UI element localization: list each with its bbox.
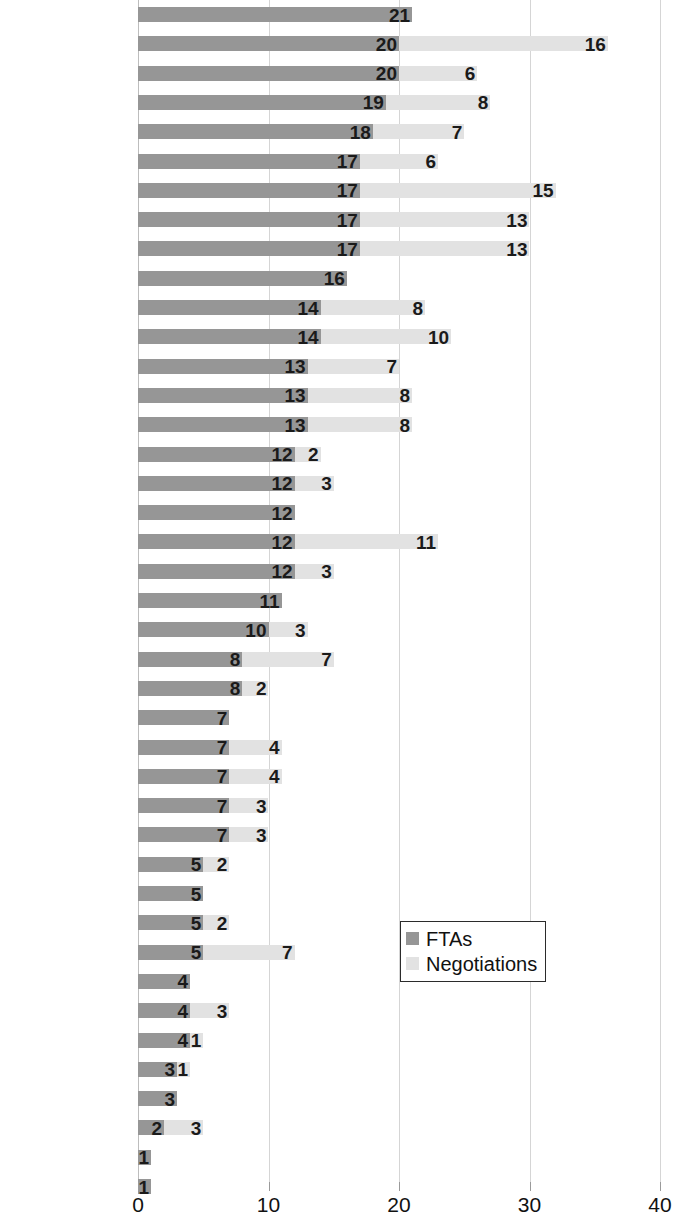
bar-row: China1713 [138, 205, 660, 234]
bar-segment-negotiations: 7 [242, 652, 333, 667]
stacked-bar: 1713 [138, 212, 530, 227]
bar-row: Chile21 [138, 0, 660, 29]
bar-segment-negotiations: 1 [177, 1062, 190, 1077]
bar-segment-negotiations: 7 [203, 945, 294, 960]
bar-segment-ftas: 8 [138, 681, 242, 696]
bar-value-label: 1 [138, 1148, 149, 1167]
legend-label-negotiations: Negotiations [426, 954, 537, 974]
stacked-bar: 1410 [138, 329, 451, 344]
bar-value-label: 4 [178, 1031, 189, 1050]
x-tick-30 [530, 1182, 531, 1191]
stacked-bar: 41 [138, 1033, 203, 1048]
bar-segment-negotiations: 2 [242, 681, 268, 696]
bar-segment-ftas: 5 [138, 886, 203, 901]
stacked-bar: 103 [138, 622, 308, 637]
bar-value-label: 15 [532, 181, 553, 200]
bar-row: Korea, Rep.198 [138, 88, 660, 117]
bar-segment-negotiations: 6 [360, 154, 438, 169]
bar-value-label: 3 [256, 825, 267, 844]
bar-segment-ftas: 11 [138, 593, 282, 608]
x-tick-40 [660, 1182, 661, 1191]
stacked-bar: 74 [138, 740, 282, 755]
bar-row: Vietnam148 [138, 293, 660, 322]
stacked-bar: 57 [138, 945, 295, 960]
stacked-bar: 1 [138, 1150, 151, 1165]
x-axis: 010203040 [138, 1182, 660, 1228]
bar-segment-ftas: 14 [138, 329, 321, 344]
bar-row: Thailand138 [138, 381, 660, 410]
bar-segment-ftas: 2 [138, 1120, 164, 1135]
bar-value-label: 14 [298, 327, 319, 346]
stacked-bar: 74 [138, 769, 282, 784]
bar-row: United States82 [138, 674, 660, 703]
bar-value-label: 5 [191, 884, 202, 903]
bar-segment-negotiations: 2 [295, 447, 321, 462]
bar-segment-negotiations: 3 [164, 1120, 203, 1135]
bar-row: EU1713 [138, 234, 660, 263]
stacked-bar: 138 [138, 417, 412, 432]
bar-value-label: 4 [269, 767, 280, 786]
bar-segment-negotiations: 1 [190, 1033, 203, 1048]
bar-segment-ftas: 10 [138, 622, 269, 637]
stacked-bar: 187 [138, 124, 464, 139]
bar-segment-negotiations: 3 [229, 827, 268, 842]
bar-segment-ftas: 7 [138, 798, 229, 813]
bar-value-label: 17 [337, 239, 358, 258]
bar-row: Peru16 [138, 264, 660, 293]
bar-value-label: 4 [178, 1001, 189, 1020]
stacked-bar: 3 [138, 1091, 177, 1106]
stacked-bar: 73 [138, 798, 269, 813]
bar-row: Tanzania1 [138, 1143, 660, 1172]
bar-segment-ftas: 5 [138, 915, 203, 930]
bar-row: Brazil73 [138, 820, 660, 849]
bar-value-label: 6 [465, 64, 476, 83]
stacked-bar: 12 [138, 505, 295, 520]
bar-segment-ftas: 7 [138, 740, 229, 755]
stacked-bar: 122 [138, 447, 321, 462]
bar-value-label: 21 [389, 5, 410, 24]
bar-value-label: 20 [376, 34, 397, 53]
stacked-bar: 1713 [138, 241, 530, 256]
x-tick-label: 20 [387, 1194, 410, 1215]
bar-segment-negotiations: 8 [386, 95, 490, 110]
bar-row: Philippines137 [138, 352, 660, 381]
stacked-bar: 148 [138, 300, 425, 315]
stacked-bar: 2016 [138, 36, 608, 51]
bar-value-label: 13 [506, 239, 527, 258]
x-tick-label: 30 [518, 1194, 541, 1215]
bar-segment-negotiations: 8 [308, 417, 412, 432]
bar-segment-ftas: 3 [138, 1062, 177, 1077]
bar-segment-negotiations: 7 [373, 124, 464, 139]
bar-value-label: 13 [285, 357, 306, 376]
gridline-40 [660, 0, 661, 1182]
bar-value-label: 12 [271, 532, 292, 551]
bar-segment-negotiations: 3 [229, 798, 268, 813]
bar-row: Kenya4 [138, 967, 660, 996]
bar-segment-ftas: 16 [138, 271, 347, 286]
bar-segment-ftas: 13 [138, 359, 308, 374]
chart-legend: FTAs Negotiations [400, 921, 546, 982]
bar-row: Canada103 [138, 615, 660, 644]
bar-value-label: 3 [295, 620, 306, 639]
bar-segment-ftas: 4 [138, 1003, 190, 1018]
stacked-bar: 7 [138, 710, 229, 725]
bar-row: Singapore2016 [138, 29, 660, 58]
bar-segment-ftas: 7 [138, 769, 229, 784]
bar-value-label: 7 [217, 738, 228, 757]
bar-value-label: 7 [282, 943, 293, 962]
bar-value-label: 20 [376, 64, 397, 83]
bar-segment-ftas: 4 [138, 974, 190, 989]
bar-segment-negotiations: 11 [295, 534, 439, 549]
bar-value-label: 2 [256, 679, 267, 698]
legend-item-negotiations: Negotiations [406, 951, 537, 976]
stacked-bar-chart: Chile21Singapore2016Switzerland206Korea,… [0, 0, 673, 1228]
bar-segment-ftas: 20 [138, 66, 399, 81]
bar-value-label: 7 [217, 767, 228, 786]
bar-value-label: 6 [426, 152, 437, 171]
stacked-bar: 82 [138, 681, 269, 696]
bar-segment-ftas: 7 [138, 827, 229, 842]
bar-row: Israel7 [138, 703, 660, 732]
bar-value-label: 17 [337, 210, 358, 229]
bar-row: South Africa52 [138, 850, 660, 879]
bar-row: Nigeria5 [138, 879, 660, 908]
